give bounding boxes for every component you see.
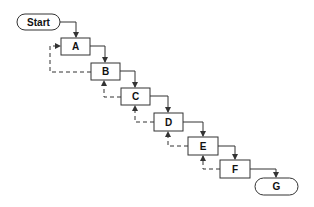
node-b: B: [91, 63, 120, 80]
edge-a-to-b: [90, 46, 105, 62]
forward-edges: [60, 22, 276, 177]
edge-f-to-g: [250, 169, 276, 177]
node-start-label: Start: [27, 17, 50, 28]
edge-d-to-e: [183, 122, 203, 136]
edge-start-to-a: [60, 22, 76, 37]
edge-e-to-f: [218, 146, 235, 159]
edge-d-to-c: [135, 106, 154, 122]
edge-b-to-c: [120, 71, 135, 87]
node-g: G: [255, 178, 298, 195]
node-f: F: [220, 160, 250, 178]
node-start: Start: [17, 14, 60, 30]
node-e: E: [188, 137, 218, 155]
edge-c-to-d: [150, 96, 168, 112]
node-a: A: [61, 38, 90, 55]
edge-f-to-e: [203, 156, 220, 169]
node-b-label: B: [102, 66, 109, 77]
node-c-label: C: [132, 91, 139, 102]
diagram-svg: Start A B C D E F G: [0, 0, 314, 207]
edge-c-to-b: [104, 81, 121, 97]
node-c: C: [121, 88, 150, 105]
node-e-label: E: [200, 141, 207, 152]
node-d-label: D: [165, 117, 172, 128]
node-d: D: [154, 113, 183, 131]
edge-e-to-d: [168, 132, 188, 146]
node-a-label: A: [72, 41, 79, 52]
node-g-label: G: [273, 181, 281, 192]
waterfall-diagram: Start A B C D E F G: [0, 0, 314, 207]
node-f-label: F: [232, 164, 238, 175]
